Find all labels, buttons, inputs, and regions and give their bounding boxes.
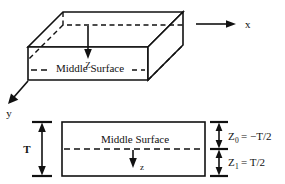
thickness-dimension: T bbox=[20, 122, 52, 176]
z0-annotation: Z 0 = −T/2 bbox=[228, 130, 271, 145]
cross-section-group: Middle Surface z T bbox=[20, 122, 271, 176]
thickness-label: T bbox=[23, 143, 31, 155]
middle-surface-label-section: Middle Surface bbox=[101, 133, 169, 145]
y-axis-shaft bbox=[14, 81, 28, 97]
x-axis-label: x bbox=[245, 18, 251, 30]
cross-section-rect bbox=[62, 122, 205, 176]
z1-subscript: 1 bbox=[235, 162, 239, 171]
plate-diagram: Middle Surface Z x y bbox=[0, 0, 285, 184]
z1-equation: = T/2 bbox=[241, 156, 265, 168]
plate-3d-group: Middle Surface Z x y bbox=[6, 12, 251, 119]
half-dim-lower-arrowhead-up bbox=[216, 150, 223, 159]
half-dim-upper-arrowhead-up bbox=[216, 123, 223, 132]
half-dim-lower-arrowhead-down bbox=[216, 167, 223, 176]
figure-canvas: Middle Surface Z x y bbox=[0, 0, 285, 184]
y-axis-3d: y bbox=[6, 81, 28, 119]
half-dim-upper-arrowhead-down bbox=[216, 140, 223, 149]
y-axis-label: y bbox=[6, 107, 12, 119]
half-thickness-dimensions: Z 0 = −T/2 Z 1 = T/2 bbox=[210, 122, 271, 176]
z1-symbol: Z bbox=[228, 156, 235, 168]
z0-equation: = −T/2 bbox=[241, 130, 271, 142]
z-axis-3d-label: Z bbox=[85, 60, 91, 70]
thickness-arrowhead-down bbox=[38, 166, 46, 176]
z0-symbol: Z bbox=[228, 130, 235, 142]
z0-subscript: 0 bbox=[235, 136, 239, 145]
z-axis-section-label: z bbox=[140, 162, 144, 172]
x-axis-3d: x bbox=[196, 18, 251, 30]
x-axis-arrowhead bbox=[226, 20, 236, 28]
z1-annotation: Z 1 = T/2 bbox=[228, 156, 265, 171]
thickness-arrowhead-up bbox=[38, 123, 46, 133]
